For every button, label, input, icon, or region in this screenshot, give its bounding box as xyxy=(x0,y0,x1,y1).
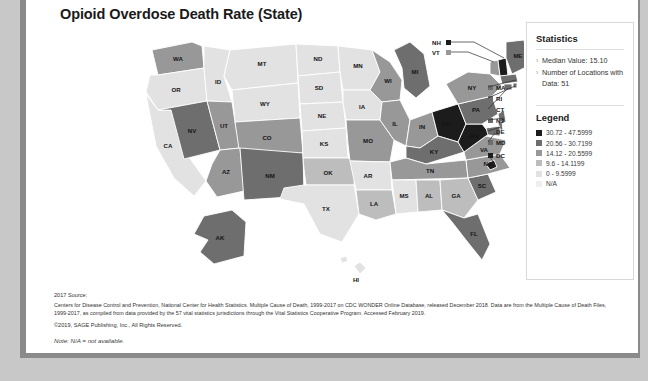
state-MA[interactable] xyxy=(500,74,518,84)
state-label-TN: TN xyxy=(426,167,434,174)
state-NH[interactable] xyxy=(498,58,508,76)
state-label-UT: UT xyxy=(220,122,228,129)
state-label-AZ: AZ xyxy=(222,168,230,175)
state-label-IL: IL xyxy=(392,120,398,127)
state-label-OK: OK xyxy=(323,169,333,176)
panel-divider xyxy=(536,49,624,50)
copyright-text: ©2019, SAGE Publishing, Inc., All Rights… xyxy=(54,322,648,328)
legend-label: 20.56 - 30.7199 xyxy=(546,140,592,147)
state-label-HI: HI xyxy=(353,276,359,283)
state-label-MN: MN xyxy=(353,62,362,69)
legend-label: 9.6 - 14.1199 xyxy=(546,160,584,167)
state-label-NC: NC xyxy=(484,160,493,167)
state-label-IA: IA xyxy=(359,103,366,110)
state-label-KY: KY xyxy=(430,148,438,155)
state-label-MI: MI xyxy=(412,68,419,75)
legend-swatch-icon xyxy=(536,130,542,136)
state-RI[interactable] xyxy=(513,83,517,88)
legend-swatch-icon xyxy=(536,140,542,146)
state-label-IN: IN xyxy=(419,123,425,130)
callout-label-RI: RI xyxy=(496,95,502,102)
source-text: Centers for Disease Control and Preventi… xyxy=(54,301,614,317)
state-label-NE: NE xyxy=(318,112,326,119)
callout-swatch-NH xyxy=(446,40,451,45)
legend-label: 30.72 - 47.5999 xyxy=(546,129,592,136)
state-TX[interactable] xyxy=(280,185,359,242)
legend-swatch-icon xyxy=(536,160,542,166)
callout-line-VT xyxy=(451,52,494,62)
state-label-MT: MT xyxy=(258,60,267,67)
state-label-ND: ND xyxy=(314,55,323,62)
state-label-AL: AL xyxy=(425,192,433,199)
state-label-GA: GA xyxy=(451,192,461,199)
state-label-AR: AR xyxy=(364,172,373,179)
legend-item[interactable]: 30.72 - 47.5999 xyxy=(536,129,624,136)
state-label-KS: KS xyxy=(320,140,328,147)
legend-swatch-icon xyxy=(536,181,542,187)
legend-label: N/A xyxy=(546,180,557,187)
note-text: Note: N/A = not available. xyxy=(54,337,124,344)
state-label-FL: FL xyxy=(470,230,478,237)
legend-swatch-icon xyxy=(536,150,542,156)
legend-label: 14.12 - 20.5599 xyxy=(546,150,592,157)
legend-label: 0 - 9.5999 xyxy=(546,170,576,177)
statistics-legend-panel: Statistics Median Value: 15.10 Number of… xyxy=(526,22,634,280)
legend-swatch-icon xyxy=(536,171,542,177)
state-label-OH: OH xyxy=(441,120,450,127)
state-label-NV: NV xyxy=(188,127,197,134)
panel-divider-2 xyxy=(536,105,624,106)
page-canvas: Opioid Overdose Death Rate (State) xyxy=(26,0,638,353)
choropleth-map[interactable]: WA OR CA NV ID MT WY UT CO AZ NM ND SD N… xyxy=(54,28,524,286)
statistics-heading: Statistics xyxy=(536,33,624,44)
report-page: Opioid Overdose Death Rate (State) xyxy=(20,0,640,358)
state-label-ME: ME xyxy=(513,52,522,59)
legend-item[interactable]: 20.56 - 30.7199 xyxy=(536,140,624,147)
state-label-CA: CA xyxy=(164,142,173,149)
state-HI[interactable] xyxy=(340,256,348,263)
state-label-VA: VA xyxy=(480,146,489,153)
stat-locations-with-data: Number of Locations with Data: 51 xyxy=(536,68,624,89)
state-label-SD: SD xyxy=(315,84,324,91)
callout-label-DE: DE xyxy=(496,128,504,135)
panel-spacer xyxy=(536,91,624,105)
source-year: 2017 Source: xyxy=(54,292,648,298)
state-label-CO: CO xyxy=(262,134,271,141)
state-label-AK: AK xyxy=(216,234,225,241)
state-FL[interactable] xyxy=(442,210,490,260)
page-title: Opioid Overdose Death Rate (State) xyxy=(60,6,302,22)
stat-median-value: Median Value: 15.10 xyxy=(536,56,624,66)
callout-label-VT: VT xyxy=(432,49,440,56)
state-label-MO: MO xyxy=(363,137,373,144)
state-HI[interactable] xyxy=(354,262,366,274)
state-label-OR: OR xyxy=(171,86,181,93)
legend-item[interactable]: 0 - 9.5999 xyxy=(536,170,624,177)
state-label-WY: WY xyxy=(260,100,270,107)
state-label-NY: NY xyxy=(468,84,476,91)
legend-item[interactable]: 14.12 - 20.5599 xyxy=(536,150,624,157)
state-label-PA: PA xyxy=(472,106,481,113)
state-label-TX: TX xyxy=(322,205,331,212)
callout-label-NH: NH xyxy=(432,39,441,46)
source-footer: 2017 Source: Centers for Disease Control… xyxy=(54,292,648,328)
legend-item[interactable]: N/A xyxy=(536,180,624,187)
state-label-WV: WV xyxy=(469,132,480,139)
callout-swatch-VT xyxy=(446,50,451,55)
callout-label-MA: MA xyxy=(496,84,506,91)
state-label-WI: WI xyxy=(384,77,392,84)
state-label-LA: LA xyxy=(370,200,379,207)
callout-label-DC: DC xyxy=(496,152,505,159)
state-label-ID: ID xyxy=(215,78,222,85)
callout-label-CT: CT xyxy=(496,106,504,113)
legend-heading: Legend xyxy=(536,112,624,123)
state-label-NM: NM xyxy=(265,172,274,179)
callout-label-MD: MD xyxy=(496,139,506,146)
state-label-MS: MS xyxy=(399,192,408,199)
state-MT[interactable] xyxy=(224,44,298,90)
state-label-WA: WA xyxy=(173,55,183,62)
state-label-SC: SC xyxy=(478,182,487,189)
legend-item[interactable]: 9.6 - 14.1199 xyxy=(536,160,624,167)
callout-swatch-NJ xyxy=(488,118,493,123)
